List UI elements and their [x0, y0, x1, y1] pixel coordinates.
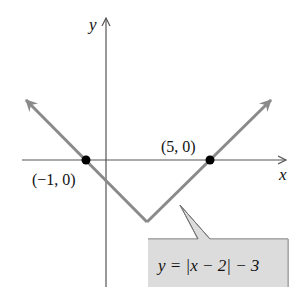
point-right — [206, 156, 215, 165]
callout-equation: y = |x − 2| − 3 — [156, 256, 259, 275]
graph: y x (5, 0) (−1, 0) y = |x − 2| − 3 — [0, 0, 303, 307]
x-axis-label: x — [278, 165, 287, 184]
point-left — [82, 156, 91, 165]
y-axis-label: y — [87, 15, 97, 34]
point-right-label: (5, 0) — [161, 138, 196, 156]
point-left-label: (−1, 0) — [32, 171, 76, 189]
